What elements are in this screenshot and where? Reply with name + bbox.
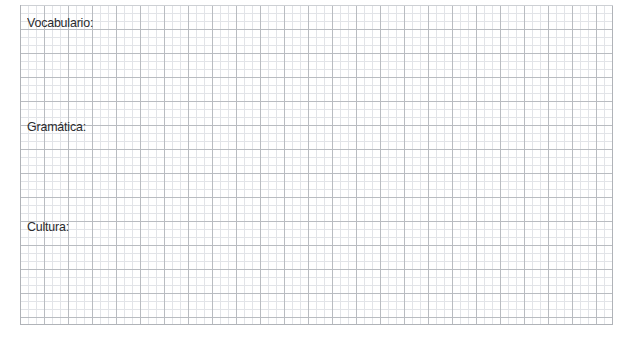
section-label-vocabulario: Vocabulario: [27, 16, 93, 30]
section-label-cultura: Cultura: [27, 220, 69, 234]
section-label-gramatica: Gramática: [27, 120, 86, 134]
graph-paper-grid [20, 5, 613, 325]
worksheet-sheet: Vocabulario: Gramática: Cultura: [0, 0, 638, 347]
